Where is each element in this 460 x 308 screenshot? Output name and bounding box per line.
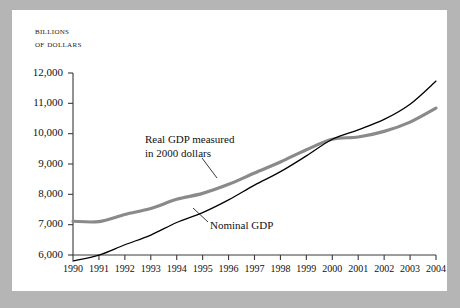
- plot-area: [12, 10, 447, 291]
- y-tick-label: 9,000: [17, 157, 63, 169]
- tick-marks: [68, 73, 436, 260]
- y-tick-label: 11,000: [17, 96, 63, 108]
- chart-figure: Billions of dollars Real GDP measured in…: [12, 10, 447, 291]
- x-tick-label: 2004: [421, 263, 451, 274]
- y-tick-label: 10,000: [17, 126, 63, 138]
- y-tick-label: 8,000: [17, 187, 63, 199]
- axes: [73, 73, 436, 255]
- data-series: [73, 81, 436, 261]
- y-tick-label: 12,000: [17, 66, 63, 78]
- y-tick-label: 6,000: [17, 248, 63, 260]
- y-tick-label: 7,000: [17, 217, 63, 229]
